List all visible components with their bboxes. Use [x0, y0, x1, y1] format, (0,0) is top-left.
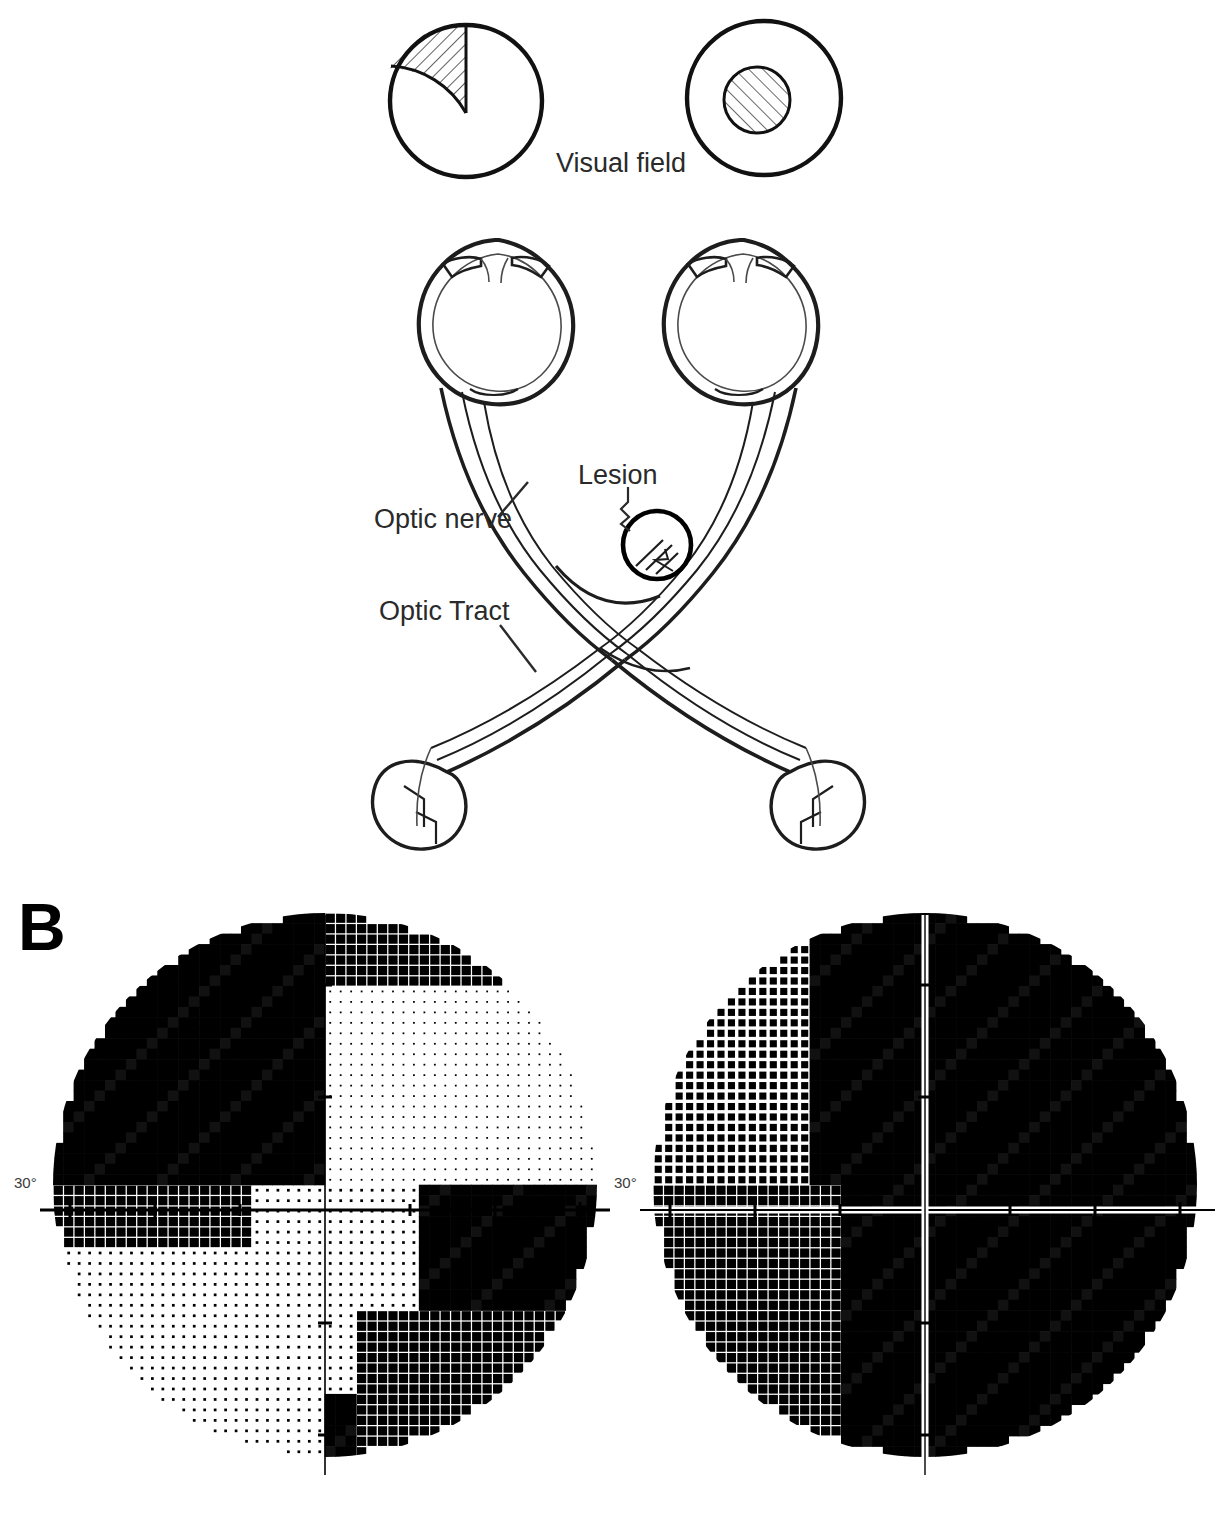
visual-field-label: Visual field [556, 148, 686, 178]
left-lateral-geniculate-body [372, 748, 465, 849]
lesion-label: Lesion [578, 460, 658, 490]
optic-tract-leader-line [500, 625, 536, 672]
panel-b: B 30° [0, 875, 1230, 1522]
optic-nerve-label: Optic nerve [374, 504, 512, 534]
panel-b-letter: B [18, 890, 66, 964]
lesion-marker [623, 511, 691, 579]
right-optic-tract [431, 649, 625, 772]
right-lateral-geniculate-body [771, 748, 864, 849]
right-plot-axis-label: 30° [614, 1174, 637, 1191]
right-eye-perimetry: 30° [614, 913, 1215, 1475]
optic-tract-label: Optic Tract [379, 596, 510, 626]
figure-root: Visual field [0, 0, 1230, 1522]
right-visual-field-circle [687, 21, 841, 175]
left-eyeball [419, 240, 573, 404]
right-eyeball [664, 240, 818, 404]
left-eye-perimetry: 30° [14, 913, 610, 1475]
left-plot-axis-label: 30° [14, 1174, 37, 1191]
optic-pathway-diagram: Visual field [0, 0, 1230, 880]
optic-chiasm [556, 566, 690, 671]
left-visual-field-circle [383, 25, 542, 177]
